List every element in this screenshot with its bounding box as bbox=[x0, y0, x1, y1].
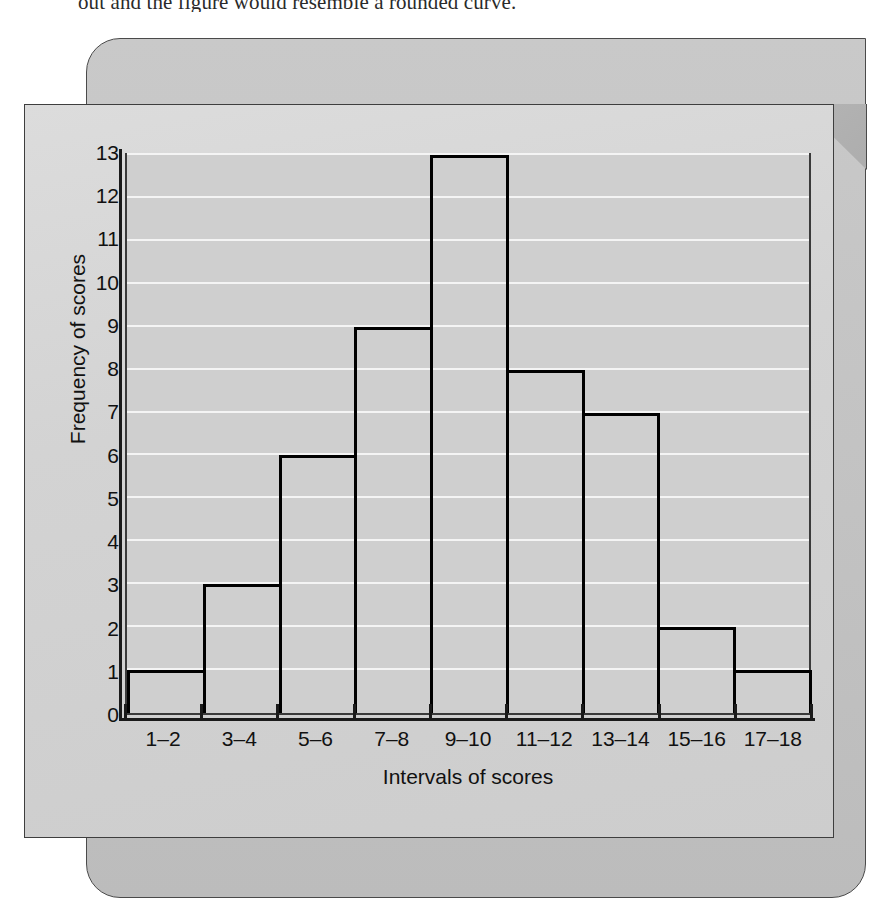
plot-area bbox=[125, 153, 811, 715]
x-axis-tick-mark bbox=[200, 704, 203, 721]
y-axis-tick-labels: 012345678910111213 bbox=[53, 105, 119, 837]
x-axis-tick-mark bbox=[429, 704, 432, 721]
page-body-text: out and the figure would resemble a roun… bbox=[78, 0, 838, 12]
x-axis-tick-mark bbox=[276, 704, 279, 721]
x-axis-tick-label: 15–16 bbox=[659, 727, 735, 751]
y-axis-tick-label: 4 bbox=[73, 530, 119, 554]
x-axis-tick-label: 5–6 bbox=[277, 727, 353, 751]
y-axis-line bbox=[119, 149, 122, 721]
histogram-bars bbox=[127, 155, 809, 713]
histogram-bar bbox=[203, 584, 282, 713]
histogram-bar bbox=[430, 155, 509, 713]
x-axis-tick-mark bbox=[353, 704, 356, 721]
y-axis-tick-label: 3 bbox=[73, 573, 119, 597]
x-axis-tick-mark bbox=[581, 704, 584, 721]
x-axis-tick-mark bbox=[658, 704, 661, 721]
y-axis-tick-label: 6 bbox=[73, 444, 119, 468]
x-axis-tick-labels: 1–23–45–67–89–1011–1213–1415–1617–18 bbox=[125, 727, 811, 751]
y-axis-tick-label: 12 bbox=[73, 184, 119, 208]
y-axis-tick-label: 1 bbox=[73, 660, 119, 684]
x-axis-tick-label: 7–8 bbox=[354, 727, 430, 751]
y-axis-tick-label: 9 bbox=[73, 314, 119, 338]
x-axis-tick-label: 9–10 bbox=[430, 727, 506, 751]
x-axis-title: Intervals of scores bbox=[125, 765, 811, 789]
y-axis-tick-label: 11 bbox=[73, 227, 119, 251]
y-axis-tick-label: 10 bbox=[73, 271, 119, 295]
x-axis-tick-label: 1–2 bbox=[125, 727, 201, 751]
histogram-bar bbox=[582, 413, 661, 713]
y-axis-tick-label: 0 bbox=[73, 703, 119, 727]
histogram-bar bbox=[279, 455, 358, 713]
x-axis-tick-label: 3–4 bbox=[201, 727, 277, 751]
x-axis-tick-mark bbox=[734, 704, 737, 721]
x-axis-tick-label: 17–18 bbox=[735, 727, 811, 751]
x-axis-tick-mark bbox=[124, 704, 127, 721]
figure-front-panel: Frequency of scores 012345678910111213 1… bbox=[24, 104, 834, 838]
histogram-bar bbox=[354, 327, 433, 713]
histogram-bar bbox=[127, 670, 206, 713]
histogram-bar bbox=[733, 670, 812, 713]
x-axis-tick-mark bbox=[810, 704, 813, 721]
figure-container: Frequency of scores 012345678910111213 1… bbox=[0, 32, 896, 922]
x-axis-tick-mark bbox=[505, 704, 508, 721]
histogram-bar bbox=[506, 370, 585, 713]
histogram-bar bbox=[657, 627, 736, 713]
y-axis-tick-label: 2 bbox=[73, 617, 119, 641]
y-axis-tick-label: 7 bbox=[73, 400, 119, 424]
y-axis-tick-label: 5 bbox=[73, 487, 119, 511]
x-axis-tick-label: 11–12 bbox=[506, 727, 582, 751]
y-axis-tick-label: 13 bbox=[73, 141, 119, 165]
y-axis-tick-label: 8 bbox=[73, 357, 119, 381]
x-axis-line bbox=[119, 718, 815, 721]
x-axis-tick-label: 13–14 bbox=[582, 727, 658, 751]
